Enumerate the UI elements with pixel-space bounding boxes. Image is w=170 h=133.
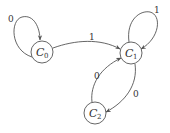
edge-c1-to-c2 — [106, 64, 135, 112]
edge-label-loop-c1: 1 — [154, 5, 160, 15]
state-diagram: 0 1 1 0 0 C 0 C 1 C 2 — [0, 0, 170, 133]
node-c0-subscript: 0 — [44, 52, 48, 60]
node-c1-subscript: 1 — [133, 53, 137, 61]
edge-label-c0-c1: 1 — [89, 32, 95, 42]
node-c2: C 2 — [84, 102, 106, 124]
edge-label-loop-c0: 0 — [8, 14, 14, 24]
node-c0: C 0 — [31, 41, 53, 63]
node-c2-subscript: 2 — [97, 113, 101, 121]
edge-label-c2-c1: 0 — [94, 71, 100, 81]
node-c1: C 1 — [120, 42, 142, 64]
edge-c0-to-c1 — [53, 41, 120, 49]
edge-label-c1-c2: 0 — [133, 89, 139, 99]
